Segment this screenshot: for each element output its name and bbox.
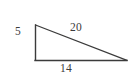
triangle-figure: 5 20 14 <box>0 0 130 83</box>
vertical-leg-label: 5 <box>15 25 21 37</box>
hypotenuse-label: 20 <box>70 21 82 33</box>
horizontal-leg-label: 14 <box>60 62 72 74</box>
